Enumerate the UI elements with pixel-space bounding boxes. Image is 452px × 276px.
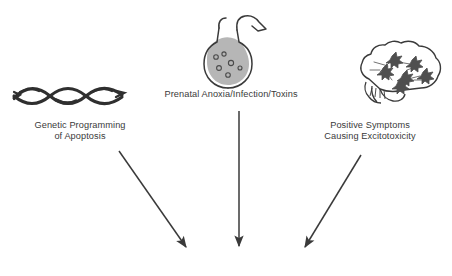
etiology-diagram: Genetic Programming of Apoptosis Prenata…: [0, 0, 452, 276]
dna-helix-icon: [14, 88, 124, 103]
flask-icon: [204, 16, 266, 88]
arrow-genetic: [119, 151, 186, 247]
arrow-positive: [305, 155, 361, 247]
label-prenatal-anoxia: Prenatal Anoxia/Infection/Toxins: [140, 89, 322, 100]
label-genetic-programming: Genetic Programming of Apoptosis: [8, 120, 152, 142]
brain-icon: [361, 41, 441, 103]
label-positive-symptoms: Positive Symptoms Causing Excitotoxicity: [294, 120, 446, 142]
